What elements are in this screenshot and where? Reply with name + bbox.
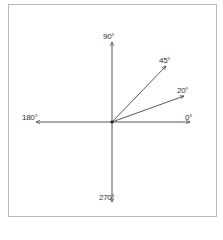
angle-label-0: 0° bbox=[185, 114, 192, 122]
angle-label-45: 45° bbox=[159, 57, 170, 65]
angle-label-90: 90° bbox=[103, 33, 114, 41]
vector-arrow-45 bbox=[112, 66, 166, 122]
angle-label-270: 270° bbox=[99, 194, 114, 202]
vector-arrow-20 bbox=[112, 96, 184, 122]
angle-label-180: 180° bbox=[22, 114, 37, 122]
origin-point bbox=[110, 120, 113, 123]
angle-label-20: 20° bbox=[177, 87, 188, 95]
